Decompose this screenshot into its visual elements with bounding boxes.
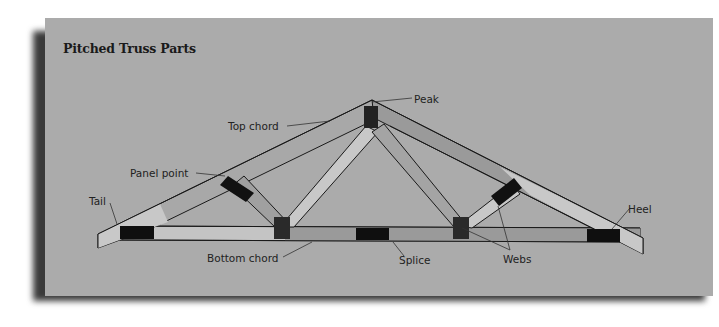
label-heel: Heel bbox=[628, 203, 652, 215]
plate-tail bbox=[120, 226, 154, 239]
plate-web-right bbox=[453, 217, 469, 239]
webs bbox=[232, 124, 520, 228]
label-tail: Tail bbox=[88, 195, 106, 207]
truss-diagram: Peak Top chord Panel point Tail Heel Bot… bbox=[0, 0, 719, 327]
label-webs: Webs bbox=[503, 253, 531, 265]
plate-peak bbox=[364, 106, 378, 128]
label-bottom-chord: Bottom chord bbox=[207, 252, 279, 264]
plate-web-left bbox=[274, 217, 290, 239]
label-panel-point: Panel point bbox=[130, 167, 188, 179]
plate-splice bbox=[356, 228, 389, 240]
label-peak: Peak bbox=[414, 93, 440, 105]
gusset-plates bbox=[120, 106, 620, 242]
plate-heel bbox=[587, 229, 620, 242]
label-splice: Splice bbox=[399, 254, 430, 266]
label-top-chord: Top chord bbox=[227, 120, 279, 132]
